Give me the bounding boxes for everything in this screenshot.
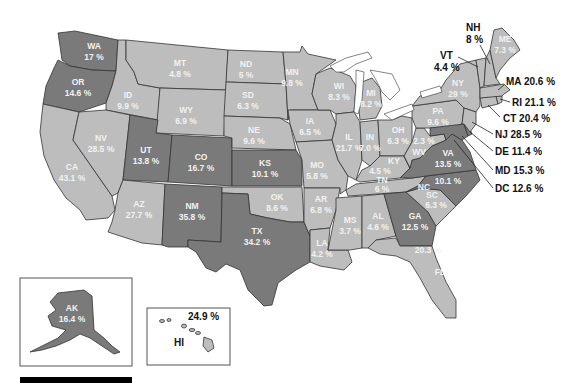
state-ND[interactable] bbox=[226, 50, 286, 84]
svg-text:12.5 %: 12.5 % bbox=[402, 222, 429, 232]
svg-text:IN: IN bbox=[366, 132, 375, 142]
svg-text:6.8 %: 6.8 % bbox=[310, 205, 332, 215]
svg-text:KY: KY bbox=[388, 156, 400, 166]
svg-text:8.6 %: 8.6 % bbox=[266, 203, 288, 213]
svg-text:HI: HI bbox=[174, 337, 184, 348]
svg-text:OH: OH bbox=[392, 125, 405, 135]
svg-text:WY: WY bbox=[179, 105, 193, 115]
svg-text:43.1 %: 43.1 % bbox=[59, 173, 86, 183]
svg-text:AK: AK bbox=[66, 303, 79, 313]
svg-text:MA 20.6 %: MA 20.6 % bbox=[506, 76, 555, 87]
svg-text:AL: AL bbox=[372, 211, 383, 221]
svg-text:FL: FL bbox=[435, 267, 445, 277]
svg-text:8 %: 8 % bbox=[466, 34, 483, 45]
svg-text:ID: ID bbox=[124, 90, 133, 100]
svg-text:PA: PA bbox=[432, 106, 443, 116]
svg-text:5.8 %: 5.8 % bbox=[306, 171, 328, 181]
svg-text:WI: WI bbox=[334, 81, 344, 91]
svg-text:NV: NV bbox=[95, 133, 107, 143]
svg-text:9.9 %: 9.9 % bbox=[117, 101, 139, 111]
svg-text:MO: MO bbox=[310, 160, 324, 170]
svg-text:OK: OK bbox=[271, 192, 285, 202]
svg-text:9.8 %: 9.8 % bbox=[281, 78, 303, 88]
svg-text:NH: NH bbox=[466, 22, 480, 33]
svg-text:35.8 %: 35.8 % bbox=[179, 212, 206, 222]
svg-text:5 %: 5 % bbox=[239, 70, 254, 80]
svg-text:KS: KS bbox=[259, 158, 271, 168]
svg-text:NY: NY bbox=[452, 78, 464, 88]
alaska-inset: AK 16.4 % bbox=[20, 278, 132, 366]
svg-text:16.4 %: 16.4 % bbox=[59, 314, 86, 324]
svg-text:6.3 %: 6.3 % bbox=[387, 136, 409, 146]
svg-text:MT: MT bbox=[174, 58, 187, 68]
svg-text:10.1 %: 10.1 % bbox=[252, 169, 279, 179]
svg-text:MI: MI bbox=[366, 88, 375, 98]
svg-text:LA: LA bbox=[316, 238, 327, 248]
svg-text:WA: WA bbox=[87, 41, 101, 51]
svg-text:ND: ND bbox=[240, 59, 252, 69]
svg-text:16.7 %: 16.7 % bbox=[188, 163, 215, 173]
svg-text:WV: WV bbox=[412, 147, 426, 157]
svg-text:13.8 %: 13.8 % bbox=[133, 156, 160, 166]
svg-text:CA: CA bbox=[66, 162, 78, 172]
state-FL[interactable] bbox=[368, 238, 456, 318]
svg-text:TX: TX bbox=[252, 226, 263, 236]
state-IA[interactable] bbox=[288, 110, 336, 142]
svg-text:AR: AR bbox=[315, 194, 327, 204]
svg-text:7.3 %: 7.3 % bbox=[494, 45, 516, 55]
svg-text:VT: VT bbox=[440, 50, 453, 61]
svg-text:6.5 %: 6.5 % bbox=[299, 127, 321, 137]
svg-text:6.9 %: 6.9 % bbox=[175, 116, 197, 126]
svg-text:CT 20.4 %: CT 20.4 % bbox=[503, 113, 550, 124]
svg-text:13.5 %: 13.5 % bbox=[435, 159, 462, 169]
svg-text:NC: NC bbox=[418, 182, 430, 192]
svg-text:8.2 %: 8.2 % bbox=[360, 99, 382, 109]
svg-text:2.3 %: 2.3 % bbox=[413, 136, 435, 146]
lake-superior bbox=[330, 52, 372, 72]
svg-text:AZ: AZ bbox=[133, 199, 144, 209]
svg-text:IA: IA bbox=[306, 116, 315, 126]
svg-text:DC 12.6 %: DC 12.6 % bbox=[495, 183, 543, 194]
svg-text:17 %: 17 % bbox=[84, 52, 104, 62]
svg-text:34.2 %: 34.2 % bbox=[244, 237, 271, 247]
svg-text:4.2 %: 4.2 % bbox=[311, 249, 333, 259]
svg-text:8.3 %: 8.3 % bbox=[328, 92, 350, 102]
svg-text:MD 15.3 %: MD 15.3 % bbox=[495, 165, 545, 176]
state-WI[interactable] bbox=[312, 68, 356, 114]
svg-text:27.7 %: 27.7 % bbox=[126, 210, 153, 220]
svg-text:10.1 %: 10.1 % bbox=[435, 176, 462, 186]
scale-bar bbox=[20, 377, 132, 383]
svg-text:9.6 %: 9.6 % bbox=[243, 136, 265, 146]
svg-text:6.3 %: 6.3 % bbox=[237, 101, 259, 111]
svg-text:RI 21.1 %: RI 21.1 % bbox=[512, 97, 556, 108]
us-choropleth-map: WA17 % OR14.6 % CA43.1 % ID9.9 % NV28.5 … bbox=[0, 0, 570, 388]
svg-text:6.3 %: 6.3 % bbox=[425, 200, 447, 210]
svg-text:4.4 %: 4.4 % bbox=[434, 62, 460, 73]
svg-text:NE: NE bbox=[248, 125, 260, 135]
svg-text:20.3 %: 20.3 % bbox=[415, 245, 442, 255]
svg-text:24.9 %: 24.9 % bbox=[188, 311, 219, 322]
svg-text:28.5 %: 28.5 % bbox=[88, 144, 115, 154]
svg-text:NM: NM bbox=[185, 201, 198, 211]
hawaii-inset: 24.9 % HI bbox=[147, 308, 230, 365]
svg-text:MN: MN bbox=[285, 67, 298, 77]
svg-text:CO: CO bbox=[195, 152, 208, 162]
svg-text:29 %: 29 % bbox=[448, 89, 468, 99]
svg-text:OR: OR bbox=[72, 77, 85, 87]
svg-text:6 %: 6 % bbox=[375, 184, 390, 194]
svg-text:9.6 %: 9.6 % bbox=[427, 117, 449, 127]
svg-text:IL: IL bbox=[345, 132, 353, 142]
svg-text:4.8 %: 4.8 % bbox=[169, 69, 191, 79]
state-KS[interactable] bbox=[232, 150, 302, 186]
svg-text:ME: ME bbox=[499, 34, 512, 44]
svg-text:MS: MS bbox=[344, 215, 357, 225]
svg-text:4.6 %: 4.6 % bbox=[367, 222, 389, 232]
svg-text:SD: SD bbox=[242, 90, 254, 100]
svg-text:3.7 %: 3.7 % bbox=[339, 226, 361, 236]
svg-text:DE 11.4 %: DE 11.4 % bbox=[495, 146, 542, 157]
svg-text:VA: VA bbox=[442, 148, 453, 158]
svg-text:7.0 %: 7.0 % bbox=[359, 143, 381, 153]
svg-text:GA: GA bbox=[409, 211, 422, 221]
svg-text:NJ 28.5 %: NJ 28.5 % bbox=[495, 129, 542, 140]
svg-text:14.6 %: 14.6 % bbox=[65, 88, 92, 98]
